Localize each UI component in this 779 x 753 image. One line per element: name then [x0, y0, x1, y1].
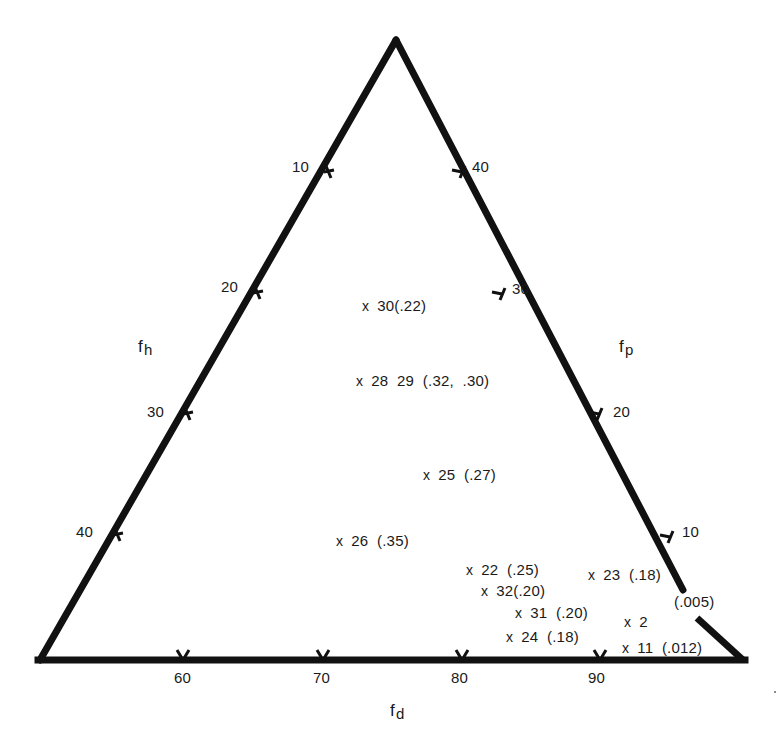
data-point-label: 30(.22)	[377, 297, 426, 314]
data-point-11: x11 (.012)	[622, 640, 702, 655]
data-point-30: x30(.22)	[362, 298, 426, 313]
x-marker-icon: x	[362, 298, 369, 314]
tick-mark	[492, 288, 505, 300]
x-marker-icon: x	[588, 567, 595, 583]
bottom-tick-70: 70	[313, 670, 330, 685]
x-marker-icon: x	[336, 533, 343, 549]
stray-dot	[774, 691, 776, 693]
x-marker-icon: x	[624, 614, 631, 630]
right-tick-20: 20	[613, 404, 630, 419]
data-point-22: x22 (.25)	[466, 562, 539, 577]
data-point-label: 28 29 (.32, .30)	[371, 372, 489, 389]
data-point-label: 25 (.27)	[438, 466, 496, 483]
bottom-tick-80: 80	[451, 670, 468, 685]
x-marker-icon: x	[423, 467, 430, 483]
data-point-24: x24 (.18)	[506, 629, 579, 644]
axis-label-fp: fp	[619, 338, 633, 355]
x-marker-icon: x	[356, 373, 363, 389]
data-point-32: x32(.20)	[481, 583, 545, 598]
axis-label-fd-sub: d	[396, 705, 405, 722]
tick-mark	[660, 531, 673, 543]
data-point-label: 11 (.012)	[637, 639, 702, 656]
data-point-label: 32(.20)	[496, 582, 545, 599]
data-point-label: 24 (.18)	[521, 628, 579, 645]
right-tick-30: 30	[512, 281, 529, 296]
x-marker-icon: x	[481, 583, 488, 599]
data-point-label: 26 (.35)	[351, 532, 409, 549]
data-point-label: 31 (.20)	[530, 604, 588, 621]
left-tick-40: 40	[76, 524, 93, 539]
axis-label-fp-base: f	[619, 337, 624, 356]
bottom-tick-90: 90	[588, 670, 605, 685]
data-point-31: x31 (.20)	[515, 605, 588, 620]
right-tick-40: 40	[472, 159, 489, 174]
ternary-diagram: 10 20 30 40 40 30 20 10 60 70 80 90 fh f…	[0, 0, 779, 753]
data-point-label: 23 (.18)	[603, 566, 661, 583]
x-marker-icon: x	[466, 562, 473, 578]
left-tick-30: 30	[147, 404, 164, 419]
left-tick-20: 20	[221, 279, 238, 294]
axis-label-fp-sub: p	[625, 341, 634, 358]
tick-mark	[452, 166, 465, 178]
right-edge-lower	[697, 618, 743, 660]
data-point-label: 2	[639, 613, 648, 630]
axis-label-fh: fh	[138, 338, 152, 355]
x-marker-icon: x	[622, 640, 629, 656]
right-edge-upper	[396, 40, 683, 590]
axis-label-fh-base: f	[138, 337, 143, 356]
tick-mark	[324, 166, 334, 178]
left-tick-10: 10	[292, 159, 309, 174]
axis-label-fd-base: f	[390, 701, 395, 720]
left-edge	[40, 40, 396, 660]
data-point-26: x26 (.35)	[336, 533, 409, 548]
tick-mark	[183, 408, 193, 420]
right-tick-10: 10	[682, 524, 699, 539]
tick-mark	[253, 287, 263, 299]
bottom-tick-60: 60	[174, 670, 191, 685]
data-point-2: x2	[624, 614, 648, 629]
annotation-005: (.005)	[674, 594, 714, 609]
x-marker-icon: x	[506, 629, 513, 645]
data-point-23: x23 (.18)	[588, 567, 661, 582]
data-point-label: 22 (.25)	[481, 561, 539, 578]
data-point-25: x25 (.27)	[423, 467, 496, 482]
data-point-28-29: x28 29 (.32, .30)	[356, 373, 489, 388]
axis-label-fh-sub: h	[144, 341, 153, 358]
axis-label-fd: fd	[390, 702, 404, 719]
x-marker-icon: x	[515, 605, 522, 621]
